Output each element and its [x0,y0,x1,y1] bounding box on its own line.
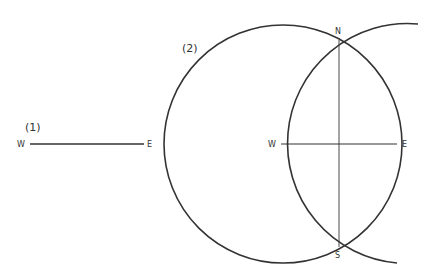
step-2-label: (2) [182,42,198,55]
point-w-step1: W [17,140,25,149]
point-e: E [402,140,407,149]
construction-diagram: (1) W E (2) W E N S [0,0,434,276]
point-e-step1: E [147,140,152,149]
point-w: W [268,140,276,149]
step-1-label: (1) [25,121,41,134]
point-n: N [335,27,341,36]
point-s: S [335,251,340,260]
arc-centered-e [288,24,418,263]
